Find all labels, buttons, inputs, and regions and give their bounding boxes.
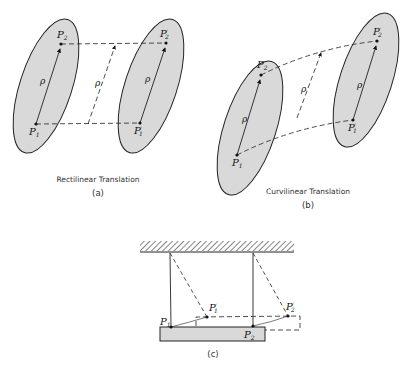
rho-label-middle: ρ — [94, 78, 101, 88]
caption-b: Curvilinear Translation — [266, 187, 350, 196]
middle-rho-vector — [88, 46, 115, 124]
panel-label-b: (b) — [302, 200, 314, 210]
point-p1-prime — [205, 315, 208, 318]
body-left-ellipse — [0, 11, 92, 160]
rho-label-right: ρ — [144, 74, 151, 84]
point-p2 — [251, 324, 254, 327]
translation-figure: P2 P1 P′2 P′1 ρ ρ ρ Rectilinear Translat… — [0, 0, 414, 376]
rho-label-left: ρ — [39, 76, 46, 86]
point-p2 — [259, 73, 262, 76]
p2-arc — [253, 316, 288, 326]
label-p2-prime: P′2 — [372, 26, 382, 38]
body-right-ellipse — [320, 5, 413, 154]
rho-label-right: ρ — [356, 80, 363, 90]
panel-b: P2 P1 P′2 P′1 ρ ρ ρ Curvilinear Translat… — [204, 5, 413, 210]
panel-label-a: (a) — [92, 188, 104, 198]
label-p2-prime: P′2 — [285, 301, 295, 313]
panel-label-c: (c) — [207, 349, 218, 359]
rho-label-left: ρ — [241, 114, 248, 124]
caption-a: Rectilinear Translation — [56, 175, 139, 184]
point-p2-prime — [375, 39, 378, 42]
link-left — [170, 253, 171, 327]
label-p1-prime: P′1 — [347, 122, 357, 134]
panel-a: P2 P1 P′2 P′1 ρ ρ ρ Rectilinear Translat… — [0, 11, 197, 198]
link-right-swung — [253, 253, 288, 316]
label-p1-prime: P′1 — [208, 302, 218, 314]
rho-label-middle: ρ — [300, 84, 307, 94]
p1-arc — [171, 317, 207, 327]
point-p2 — [59, 42, 62, 45]
point-p2-prime — [286, 314, 289, 317]
ceiling-hatch — [140, 241, 294, 251]
point-p2-prime — [164, 41, 167, 44]
panel-c: P1 P2 P′1 P′2 (c) — [140, 241, 300, 359]
body-right-ellipse — [105, 11, 198, 160]
label-p2-prime: P′2 — [159, 28, 169, 40]
body-left-ellipse — [204, 53, 297, 202]
link-left-swung — [170, 253, 207, 317]
label-p1-prime: P′1 — [133, 125, 143, 137]
label-p1: P1 — [159, 316, 171, 328]
